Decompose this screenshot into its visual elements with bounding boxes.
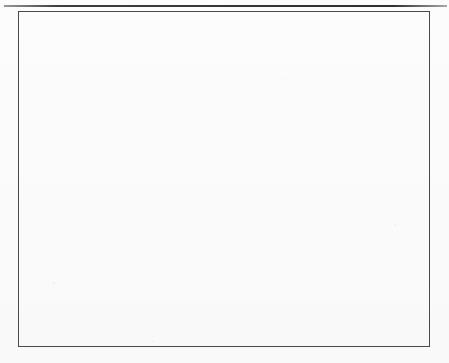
chart-container [18, 11, 430, 347]
page-header-rule [4, 5, 447, 7]
chart-plot [18, 11, 430, 347]
